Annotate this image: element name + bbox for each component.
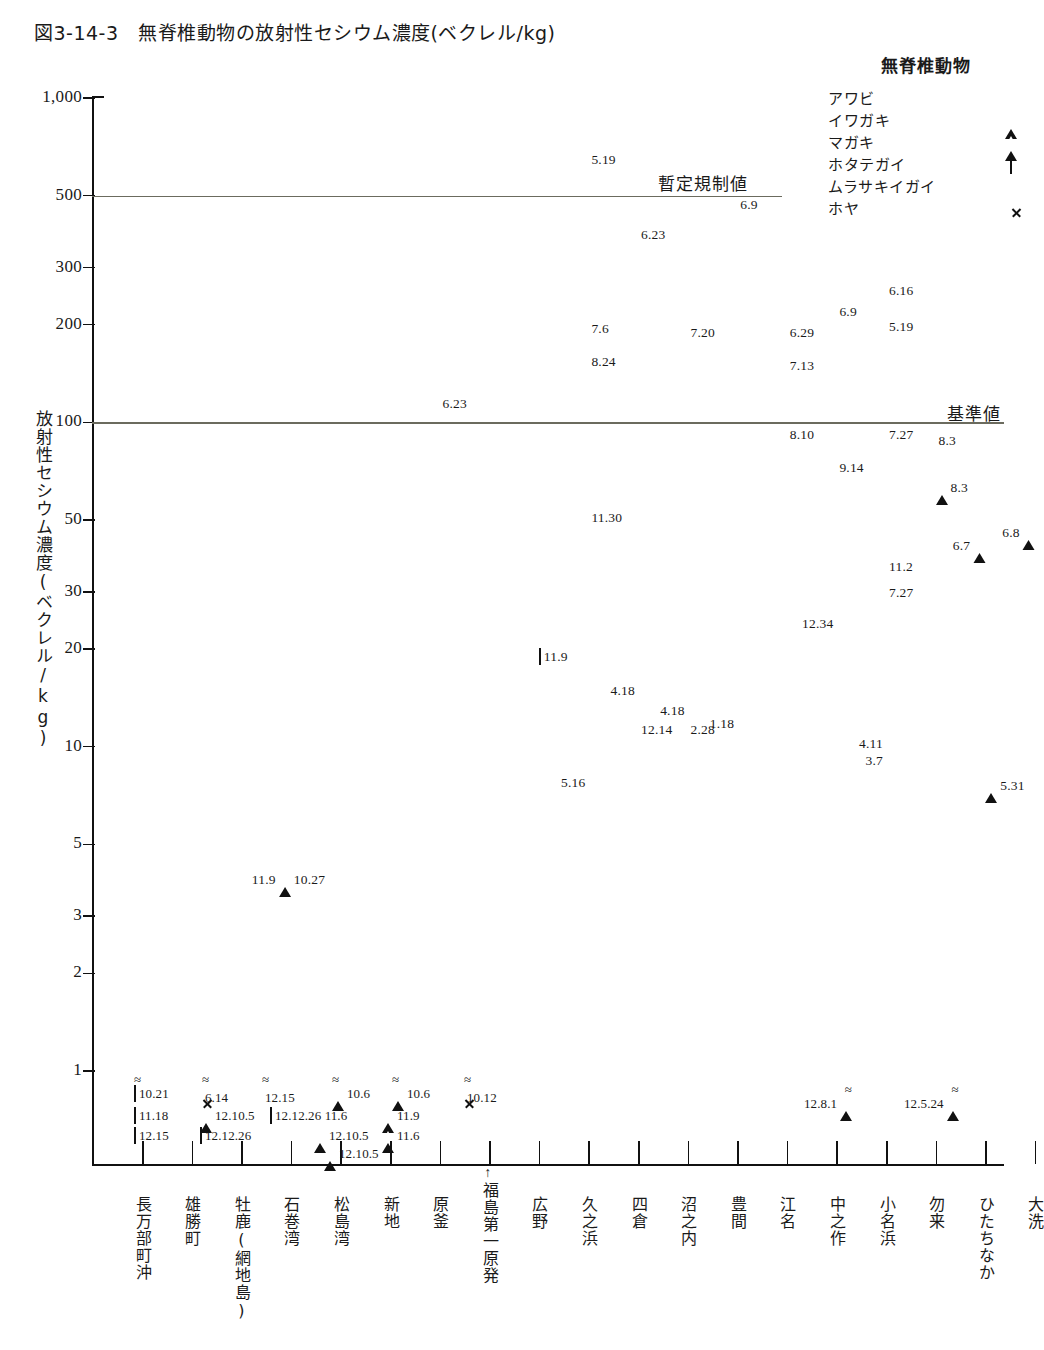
x-axis-label-18: 大洗 (1026, 1196, 1043, 1230)
annotation-marker-label: 12.15 (134, 1128, 169, 1144)
data-point: 6.16 (886, 283, 916, 299)
y-tick-label: 2 (0, 962, 82, 982)
data-point-label: 5.19 (588, 152, 618, 168)
data-point: 4.11 (856, 736, 886, 752)
y-tick (83, 267, 95, 269)
x-tick (489, 1141, 491, 1164)
y-tick (83, 844, 95, 846)
x-tick (936, 1141, 938, 1164)
data-point-label: 6.8 (999, 525, 1022, 541)
y-tick (83, 591, 95, 593)
data-point-label: 6.7 (950, 538, 973, 554)
x-tick (241, 1141, 243, 1164)
annotation-item: 12.15 (134, 1128, 169, 1144)
annotation-item-right: ≈12.8.1 (804, 1096, 852, 1112)
x-axis-label-2: 牡鹿(網地島) (232, 1196, 249, 1321)
data-point: 11.9 (249, 872, 291, 888)
square-open-icon (134, 1127, 136, 1144)
annotation-item-right: ≈12.5.24 (904, 1096, 959, 1112)
data-point-label: 1.18 (707, 716, 737, 732)
data-point: 8.24 (588, 354, 618, 370)
x-tick (836, 1141, 838, 1164)
data-point: 11.9 (539, 649, 571, 665)
annotation-label: 11.6 (394, 1128, 420, 1144)
x-axis-label-0: 長万部町沖 (133, 1196, 150, 1281)
y-tick (83, 1070, 95, 1072)
y-tick (83, 97, 95, 99)
y-tick-label: 20 (0, 638, 82, 658)
annotation-marker-label: 10.6 (332, 1086, 370, 1102)
x-tick (787, 1141, 789, 1164)
data-point: 7.27 (886, 585, 916, 601)
annotation-marker-label: 10.12 (464, 1090, 497, 1106)
annotation-item: ≈10.21 (134, 1086, 169, 1102)
data-point-label: 6.16 (886, 283, 916, 299)
data-point-label: 12.34 (799, 616, 836, 632)
plot-area: 1,000500300200100503020105321 暫定規制値基準値 6… (92, 96, 1004, 1166)
y-tick-label: 1 (0, 1060, 82, 1080)
approx-icon: ≈ (464, 1073, 471, 1086)
x-tick (291, 1141, 293, 1164)
x-axis-label-10: 四倉 (629, 1196, 646, 1230)
x-axis-label-1: 雄勝町 (183, 1196, 200, 1247)
data-point: 11.30 (588, 510, 625, 526)
y-tick-label: 1,000 (0, 87, 82, 107)
approx-icon: ≈ (951, 1083, 958, 1096)
annotation-marker-label: 12.10.5 (324, 1146, 379, 1162)
data-point-label: 10.27 (291, 872, 328, 888)
data-point-label: 9.14 (836, 460, 866, 476)
data-point: 6.7 (950, 538, 985, 554)
annotation-marker-label: 12.5.24 (904, 1096, 959, 1112)
x-axis-label-5: 新地 (381, 1196, 398, 1230)
x-tick (440, 1141, 442, 1164)
data-point: 6.9 (737, 197, 760, 213)
data-point-label: 6.23 (638, 227, 668, 243)
annotation-label: 12.15 (262, 1090, 295, 1106)
annotation-item: ≈10.6 (392, 1086, 430, 1102)
data-point: 12.34 (799, 616, 836, 632)
y-tick-label: 3 (0, 905, 82, 925)
data-point-label: 8.3 (948, 480, 971, 496)
legend-title: 無脊椎動物 (828, 52, 1024, 77)
annotation-marker-label: 11.9 (382, 1108, 420, 1124)
y-tick-label: 200 (0, 314, 82, 334)
annotation-item: ≈10.12 (464, 1086, 497, 1106)
x-axis-label-13: 江名 (778, 1196, 795, 1230)
x-tick (737, 1141, 739, 1164)
y-tick (83, 324, 95, 326)
annotation-marker-label: 6.14 (202, 1090, 228, 1106)
annotation-item: 12.12.26 (200, 1128, 251, 1144)
annotation-label: 10.21 (136, 1086, 169, 1102)
data-point: 6.29 (787, 325, 817, 341)
x-tick (192, 1141, 194, 1164)
triangle-filled-icon (973, 538, 985, 563)
square-open-icon (200, 1127, 202, 1144)
x-axis-label-12: 豊間 (728, 1196, 745, 1230)
x-axis-labels: 長万部町沖雄勝町牡鹿(網地島)石巻湾松島湾新地原釜福島第一原発↑広野久之浜四倉沼… (92, 1196, 1004, 1346)
annotation-item: 11.9 (382, 1108, 420, 1124)
data-point-label: 7.20 (688, 325, 718, 341)
data-point: 5.16 (558, 775, 588, 791)
x-tick (985, 1141, 987, 1164)
x-tick (588, 1141, 590, 1164)
annotation-marker-label: 11.6 (382, 1128, 420, 1144)
data-point-label: 8.3 (936, 433, 959, 449)
x-tick (638, 1141, 640, 1164)
data-point-label: 5.31 (997, 778, 1027, 794)
y-tick-label: 5 (0, 833, 82, 853)
data-point: 7.6 (588, 321, 611, 337)
data-point-label: 11.30 (588, 510, 625, 526)
data-point: 7.20 (688, 325, 718, 341)
y-tick (83, 519, 95, 521)
reference-line-label: 暫定規制値 (658, 170, 748, 195)
triangle-filled-icon (1023, 525, 1035, 550)
data-point-label: 4.18 (657, 703, 687, 719)
data-point: 6.23 (440, 396, 470, 412)
approx-icon: ≈ (845, 1083, 852, 1096)
annotation-label: 12.10.5 (212, 1108, 255, 1124)
annotation-item: 11.6 (382, 1128, 420, 1144)
y-axis-title: 放射性セシウム濃度(ベクレル/kg) (20, 410, 52, 749)
square-open-icon (270, 1107, 272, 1124)
x-tick (886, 1141, 888, 1164)
data-point: 4.18 (608, 683, 638, 699)
